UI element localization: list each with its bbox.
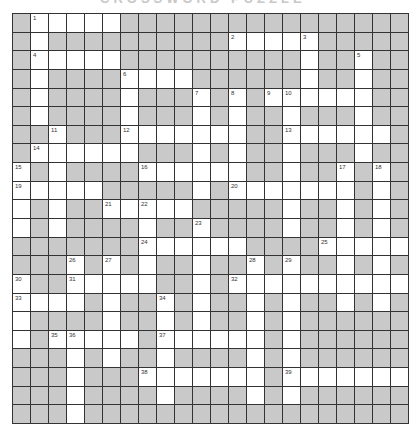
answer-cell[interactable] [337, 219, 354, 237]
answer-cell[interactable] [67, 349, 84, 367]
answer-cell[interactable] [121, 200, 138, 218]
answer-cell[interactable] [229, 368, 246, 386]
answer-cell[interactable] [301, 51, 318, 69]
answer-cell[interactable] [67, 182, 84, 200]
answer-cell[interactable] [49, 219, 66, 237]
answer-cell[interactable] [373, 219, 390, 237]
answer-cell[interactable] [139, 275, 156, 293]
answer-cell[interactable] [103, 14, 120, 32]
answer-cell[interactable]: 37 [157, 331, 174, 349]
answer-cell[interactable] [85, 331, 102, 349]
answer-cell[interactable] [67, 144, 84, 162]
answer-cell[interactable] [31, 70, 48, 88]
answer-cell[interactable] [355, 144, 372, 162]
answer-cell[interactable]: 26 [67, 256, 84, 274]
answer-cell[interactable] [193, 126, 210, 144]
answer-cell[interactable] [337, 275, 354, 293]
answer-cell[interactable] [31, 182, 48, 200]
answer-cell[interactable] [193, 107, 210, 125]
answer-cell[interactable]: 6 [121, 70, 138, 88]
answer-cell[interactable] [229, 238, 246, 256]
answer-cell[interactable] [247, 33, 264, 51]
answer-cell[interactable]: 15 [13, 163, 30, 181]
answer-cell[interactable] [247, 387, 264, 405]
answer-cell[interactable]: 17 [337, 163, 354, 181]
answer-cell[interactable] [283, 349, 300, 367]
answer-cell[interactable] [247, 368, 264, 386]
answer-cell[interactable] [337, 294, 354, 312]
answer-cell[interactable] [373, 256, 390, 274]
answer-cell[interactable] [193, 275, 210, 293]
answer-cell[interactable] [319, 182, 336, 200]
answer-cell[interactable] [31, 107, 48, 125]
answer-cell[interactable] [337, 238, 354, 256]
answer-cell[interactable] [157, 387, 174, 405]
answer-cell[interactable] [157, 238, 174, 256]
answer-cell[interactable] [49, 14, 66, 32]
answer-cell[interactable] [211, 238, 228, 256]
answer-cell[interactable] [49, 144, 66, 162]
answer-cell[interactable] [49, 200, 66, 218]
answer-cell[interactable]: 14 [31, 144, 48, 162]
answer-cell[interactable]: 27 [103, 256, 120, 274]
answer-cell[interactable] [337, 89, 354, 107]
answer-cell[interactable] [229, 331, 246, 349]
answer-cell[interactable] [229, 144, 246, 162]
answer-cell[interactable]: 8 [229, 89, 246, 107]
answer-cell[interactable] [355, 238, 372, 256]
answer-cell[interactable] [283, 144, 300, 162]
answer-cell[interactable] [157, 312, 174, 330]
answer-cell[interactable]: 39 [283, 368, 300, 386]
answer-cell[interactable] [103, 349, 120, 367]
answer-cell[interactable] [85, 14, 102, 32]
answer-cell[interactable] [175, 368, 192, 386]
answer-cell[interactable] [247, 349, 264, 367]
answer-cell[interactable] [283, 275, 300, 293]
answer-cell[interactable] [391, 238, 408, 256]
answer-cell[interactable] [337, 368, 354, 386]
answer-cell[interactable] [157, 70, 174, 88]
answer-cell[interactable] [337, 126, 354, 144]
answer-cell[interactable] [211, 368, 228, 386]
answer-cell[interactable] [211, 163, 228, 181]
answer-cell[interactable] [373, 238, 390, 256]
answer-cell[interactable] [157, 368, 174, 386]
answer-cell[interactable] [139, 70, 156, 88]
answer-cell[interactable] [337, 256, 354, 274]
answer-cell[interactable] [229, 107, 246, 125]
answer-cell[interactable] [265, 33, 282, 51]
answer-cell[interactable]: 12 [121, 126, 138, 144]
answer-cell[interactable] [139, 219, 156, 237]
answer-cell[interactable] [355, 275, 372, 293]
answer-cell[interactable] [283, 219, 300, 237]
answer-cell[interactable]: 30 [13, 275, 30, 293]
answer-cell[interactable] [373, 182, 390, 200]
answer-cell[interactable] [67, 368, 84, 386]
answer-cell[interactable]: 11 [49, 126, 66, 144]
answer-cell[interactable] [31, 33, 48, 51]
answer-cell[interactable] [85, 182, 102, 200]
answer-cell[interactable] [301, 182, 318, 200]
answer-cell[interactable] [283, 33, 300, 51]
answer-cell[interactable] [373, 275, 390, 293]
answer-cell[interactable]: 20 [229, 182, 246, 200]
answer-cell[interactable] [175, 200, 192, 218]
answer-cell[interactable] [373, 294, 390, 312]
answer-cell[interactable]: 7 [193, 89, 210, 107]
answer-cell[interactable] [283, 294, 300, 312]
answer-cell[interactable] [193, 163, 210, 181]
answer-cell[interactable] [301, 368, 318, 386]
answer-cell[interactable] [283, 182, 300, 200]
answer-cell[interactable] [157, 126, 174, 144]
answer-cell[interactable] [67, 14, 84, 32]
answer-cell[interactable] [139, 126, 156, 144]
answer-cell[interactable] [391, 275, 408, 293]
answer-cell[interactable]: 36 [67, 331, 84, 349]
answer-cell[interactable] [175, 126, 192, 144]
answer-cell[interactable] [103, 275, 120, 293]
answer-cell[interactable] [247, 312, 264, 330]
answer-cell[interactable] [175, 238, 192, 256]
answer-cell[interactable] [373, 126, 390, 144]
answer-cell[interactable] [193, 144, 210, 162]
answer-cell[interactable] [211, 126, 228, 144]
